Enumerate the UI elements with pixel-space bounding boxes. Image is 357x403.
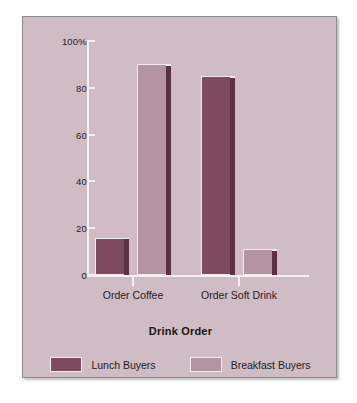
x-axis-tick-label: Order Soft Drink: [201, 289, 277, 301]
bar-top-edge: [272, 249, 277, 251]
x-axis-title: Drink Order: [23, 325, 338, 337]
legend-label: Breakfast Buyers: [231, 359, 311, 371]
y-axis-line: [87, 41, 89, 277]
legend-label: Lunch Buyers: [91, 359, 155, 371]
chart-panel: 020406080100% Order CoffeeOrder Soft Dri…: [22, 16, 337, 378]
legend-swatch: [50, 357, 82, 372]
y-axis-tick-label: 40: [45, 176, 87, 187]
bar-face: [201, 76, 230, 275]
bar-side-shadow: [272, 249, 277, 275]
y-axis-tick-label: 100%: [45, 36, 87, 47]
bar-face: [137, 64, 166, 275]
bar-top-edge: [230, 76, 235, 78]
bar-top-edge: [166, 64, 171, 66]
x-axis-tick-label: Order Coffee: [103, 289, 164, 301]
x-axis-tick-mark: [132, 277, 134, 286]
bar: [201, 76, 235, 275]
bar-top-edge: [124, 238, 129, 240]
bar: [243, 249, 277, 275]
bar: [137, 64, 171, 275]
y-axis-tick-mark: [87, 40, 95, 42]
legend-item[interactable]: Lunch Buyers: [50, 357, 155, 372]
y-axis-tick-mark: [87, 274, 95, 276]
y-axis-tick-label: 0: [45, 270, 87, 281]
y-axis-tick-mark: [87, 227, 95, 229]
bar-face: [95, 238, 124, 275]
bar-side-shadow: [230, 76, 235, 275]
y-axis-tick-mark: [87, 87, 95, 89]
bar-side-shadow: [166, 64, 171, 275]
y-axis-tick-label: 80: [45, 82, 87, 93]
y-axis-tick-label: 20: [45, 223, 87, 234]
y-axis-tick-mark: [87, 180, 95, 182]
x-axis-line: [87, 275, 309, 277]
legend-item[interactable]: Breakfast Buyers: [190, 357, 311, 372]
chart-legend: Lunch BuyersBreakfast Buyers: [23, 357, 338, 372]
y-axis-tick-mark: [87, 134, 95, 136]
bar-face: [243, 249, 272, 275]
plot-area: 020406080100% Order CoffeeOrder Soft Dri…: [23, 17, 338, 317]
bar-side-shadow: [124, 238, 129, 275]
legend-swatch: [190, 357, 222, 372]
x-axis-tick-mark: [238, 277, 240, 286]
bar: [95, 238, 129, 275]
y-axis-tick-label: 60: [45, 129, 87, 140]
